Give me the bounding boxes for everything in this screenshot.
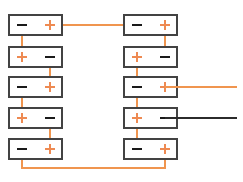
battery-l5[interactable] [9,139,62,159]
battery-l3[interactable] [9,77,62,97]
battery-l2[interactable] [9,47,62,67]
battery-r2[interactable] [124,47,177,67]
battery-r1[interactable] [124,15,177,35]
diagram-canvas [0,0,243,182]
battery-l1[interactable] [9,15,62,35]
battery-r5[interactable] [124,139,177,159]
batteries-layer [9,15,177,159]
battery-l4[interactable] [9,108,62,128]
battery-wiring-diagram [0,0,243,182]
